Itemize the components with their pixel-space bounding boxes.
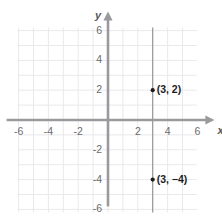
point-label: (3, 2) <box>157 83 182 95</box>
y-axis-arrowhead-icon <box>103 12 112 21</box>
x-tick-label: 6 <box>186 125 208 137</box>
y-tick-label: 2 <box>82 83 102 95</box>
y-tick-label: -2 <box>82 143 102 155</box>
x-tick-label: -4 <box>37 125 59 137</box>
data-point-marker <box>151 88 155 92</box>
point-label: (3, −4) <box>157 173 188 185</box>
y-axis-label: y <box>95 9 101 21</box>
x-axis-label: x <box>217 124 222 136</box>
y-tick-label: 4 <box>82 53 102 65</box>
y-tick-label: -6 <box>82 202 102 214</box>
x-tick-label: 2 <box>127 125 149 137</box>
coordinate-plane-canvas <box>0 0 222 221</box>
x-axis-arrowhead-icon <box>205 115 214 124</box>
x-tick-label: -6 <box>8 125 30 137</box>
y-tick-label: 6 <box>82 24 102 36</box>
x-tick-label: -2 <box>67 125 89 137</box>
data-point-marker <box>151 178 155 182</box>
y-tick-label: -4 <box>82 173 102 185</box>
x-tick-label: 4 <box>157 125 179 137</box>
coordinate-plane-figure: -6-4-2246642-2-4-6yx(3, 2)(3, −4) <box>0 0 222 221</box>
